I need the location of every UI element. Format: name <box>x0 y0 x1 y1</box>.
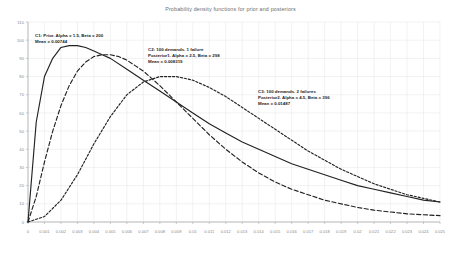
y-tick-label: 30 <box>10 165 24 170</box>
y-tick-label: 50 <box>10 129 24 134</box>
series-line-2 <box>28 55 440 222</box>
x-tick-label: 0.008 <box>155 229 165 234</box>
y-tick-label: 20 <box>10 183 24 188</box>
x-tick-label: 0.014 <box>254 229 264 234</box>
gridlines <box>28 22 440 222</box>
y-tick-label: 100 <box>10 38 24 43</box>
x-tick-label: 0.012 <box>221 229 231 234</box>
x-tick-label: 0.009 <box>171 229 181 234</box>
x-tick-label: 0.001 <box>39 229 49 234</box>
annotation-line: Mean = 0.008319 <box>148 59 220 65</box>
y-tick-label: 60 <box>10 111 24 116</box>
axis-lines <box>26 22 440 224</box>
annotation-line: Mean = 0.01487 <box>258 101 330 107</box>
y-tick-label: 70 <box>10 92 24 97</box>
x-tick-label: 0.005 <box>105 229 115 234</box>
x-tick-label: 0.015 <box>270 229 280 234</box>
y-tick-label: 90 <box>10 56 24 61</box>
x-tick-label: 0.025 <box>435 229 445 234</box>
x-tick-label: 0.007 <box>138 229 148 234</box>
annotation-c2-posterior1: C2: 100 demands. 1 failurePosterior1. Al… <box>148 47 220 65</box>
annotation-c3-posterior2: C3: 100 demands. 2 failuresPosterior2. A… <box>258 89 330 107</box>
x-tick-label: 0.004 <box>89 229 99 234</box>
x-tick-label: 0.006 <box>122 229 132 234</box>
y-tick-label: 10 <box>10 201 24 206</box>
y-tick-label: 80 <box>10 74 24 79</box>
x-tick-label: 0.022 <box>385 229 395 234</box>
x-tick-label: 0.018 <box>320 229 330 234</box>
x-tick-label: 0.02 <box>354 229 362 234</box>
x-tick-label: 0 <box>27 229 29 234</box>
x-tick-label: 0.017 <box>303 229 313 234</box>
y-tick-label: 0 <box>10 220 24 225</box>
x-tick-label: 0.003 <box>72 229 82 234</box>
x-tick-label: 0.019 <box>336 229 346 234</box>
annotation-line: Mean = 0.00744 <box>35 39 103 45</box>
data-series-layer <box>28 46 440 222</box>
x-tick-label: 0.021 <box>369 229 379 234</box>
x-tick-label: 0.016 <box>287 229 297 234</box>
series-line-1 <box>28 46 440 222</box>
x-tick-label: 0.013 <box>237 229 247 234</box>
annotation-c1-prior: C1: Prior. Alpha = 1.5, Beta = 200Mean =… <box>35 33 103 45</box>
x-tick-label: 0.023 <box>402 229 412 234</box>
chart-container: Probability density functions for prior … <box>0 0 461 253</box>
y-tick-label: 40 <box>10 147 24 152</box>
y-tick-label: 110 <box>10 20 24 25</box>
x-tick-label: 0.024 <box>418 229 428 234</box>
x-tick-label: 0.002 <box>56 229 66 234</box>
x-tick-label: 0.01 <box>189 229 197 234</box>
x-tick-label: 0.011 <box>204 229 214 234</box>
